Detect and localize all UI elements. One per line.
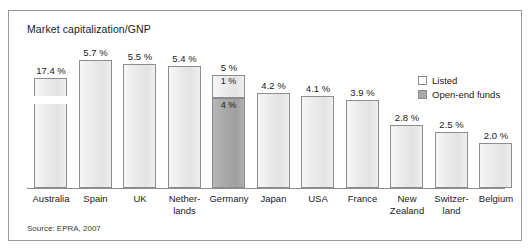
bar-value-label: 2.0 % [474,130,518,141]
page-title: Market capitalization/GNP [27,23,151,35]
x-axis-tick-label: Belgium [470,193,522,205]
bar-value-label: 5 % [207,62,251,73]
bar-segment-listed[interactable] [257,93,290,188]
bar-group[interactable]: 3.9 % [341,54,385,188]
bar-group[interactable]: 5.5 % [118,54,162,188]
tick-label-line: lands [159,205,211,217]
bar-group[interactable]: 4.1 % [296,54,340,188]
source-note: Source: EPRA, 2007 [27,224,101,233]
bar-group[interactable]: 17.4 % [29,54,73,188]
bar-value-label: 4.1 % [296,83,340,94]
bar-segment-listed[interactable] [168,66,201,188]
bar-segment-broken-cap[interactable] [34,78,67,96]
bar-value-label: 5.4 % [163,53,207,64]
tick-label-line: Belgium [470,193,522,205]
bar-segment-listed[interactable] [34,104,67,188]
bar-segment-listed[interactable] [390,125,423,188]
bar-group[interactable]: 2.5 % [430,54,474,188]
bar-segment-label-listed: 1 % [212,76,245,86]
bar-value-label: 17.4 % [29,65,73,76]
bar-segment-open-end-funds[interactable] [212,98,245,188]
bar-group[interactable]: 5.4 % [163,54,207,188]
bar-value-label: 2.8 % [385,112,429,123]
bar-segment-listed[interactable] [123,64,156,188]
bar-segment-label-open-end-funds: 4 % [212,100,245,110]
bar-segment-listed[interactable] [346,100,379,188]
bar-group[interactable]: 2.0 % [474,54,518,188]
bar-group[interactable]: 4.2 % [252,54,296,188]
bar-value-label: 2.5 % [430,119,474,130]
bar-group[interactable]: 2.8 % [385,54,429,188]
bar-segment-listed[interactable] [301,96,334,188]
tick-label-line: land [426,205,478,217]
figure-frame: Market capitalization/GNP Listed Open-en… [8,10,522,241]
bar-group[interactable]: 5.7 % [74,54,118,188]
bar-value-label: 5.5 % [118,51,162,62]
bar-value-label: 3.9 % [341,87,385,98]
bar-value-label: 5.7 % [74,47,118,58]
bar-value-label: 4.2 % [252,80,296,91]
bar-segment-listed[interactable] [479,143,512,188]
bar-segment-listed[interactable] [435,132,468,188]
bar-group[interactable]: 4 %1 %5 % [207,54,251,188]
bar-segment-listed[interactable] [79,60,112,188]
plot-area: 17.4 %5.7 %5.5 %5.4 %4 %1 %5 %4.2 %4.1 %… [27,55,505,189]
x-axis-line [27,188,505,189]
